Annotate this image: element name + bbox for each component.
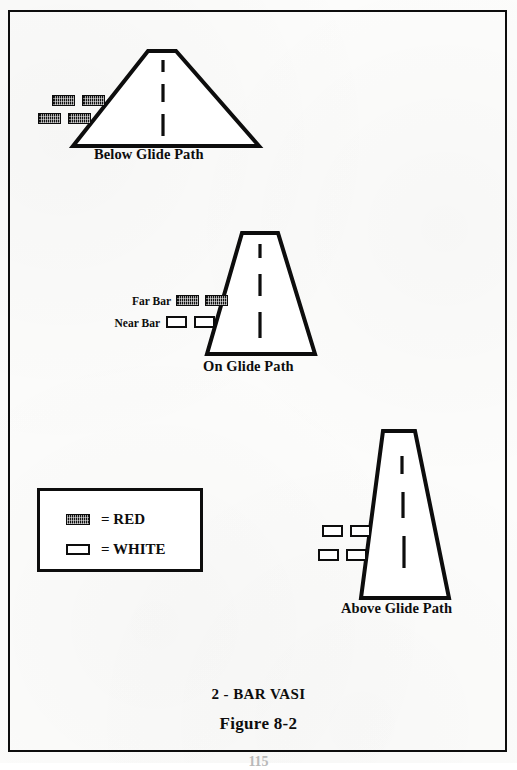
runway-on-glide-path (198, 228, 328, 360)
light-below-far-right (82, 95, 105, 106)
runway-above-glide-path (352, 426, 460, 606)
runway-on-glide-path-shape (198, 228, 328, 360)
light-below-near-right (68, 113, 91, 124)
page-number: 115 (0, 754, 517, 770)
figure-title: 2 - BAR VASI (0, 686, 517, 703)
caption-above-glide-path: Above Glide Path (341, 600, 452, 617)
light-below-near-left (38, 113, 61, 124)
legend-row-red: = RED (66, 511, 145, 527)
light-below-far-left (52, 95, 75, 106)
label-far-bar: Far Bar (116, 295, 171, 307)
white-light-bar-icon (66, 544, 90, 555)
figure-number: Figure 8-2 (0, 714, 517, 734)
caption-on-glide-path: On Glide Path (203, 358, 294, 375)
label-near-bar: Near Bar (98, 317, 160, 329)
light-above-near-left (318, 549, 339, 561)
light-on-far-left (176, 295, 199, 306)
light-above-far-right (350, 525, 371, 537)
caption-below-glide-path: Below Glide Path (94, 146, 204, 163)
legend-label-white: = WHITE (101, 541, 166, 558)
legend-box: = RED = WHITE (37, 488, 203, 572)
light-on-near-right (194, 316, 215, 328)
light-above-far-left (322, 525, 343, 537)
light-above-near-right (346, 549, 367, 561)
runway-above-glide-path-shape (352, 426, 460, 606)
red-light-bar-icon (66, 514, 90, 525)
light-on-far-right (205, 295, 228, 306)
legend-row-white: = WHITE (66, 541, 166, 557)
runway-outline (361, 431, 449, 598)
legend-label-red: = RED (101, 511, 145, 528)
light-on-near-left (166, 316, 187, 328)
